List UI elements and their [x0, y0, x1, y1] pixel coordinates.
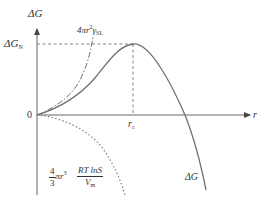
- surface-term-prefix: 4πr: [77, 25, 90, 35]
- surface-term-label: 4πr2γSL: [77, 24, 103, 36]
- diagram-canvas: [0, 0, 269, 205]
- volume-term-fraction: RT lnS Vm: [77, 166, 103, 188]
- x-axis-label-text: r: [253, 109, 257, 120]
- origin-label-text: 0: [27, 109, 32, 120]
- total-curve-label-text: ΔG: [185, 171, 198, 182]
- critical-energy-label: ΔGN: [4, 38, 23, 50]
- volume-term-pi-r: πr: [56, 171, 64, 181]
- nucleation-free-energy-diagram: ΔG ΔGN 4πr2γSL 0 rc r ΔG 4 3 πr3 RT lnS …: [0, 0, 269, 205]
- critical-energy-label-main: ΔG: [4, 37, 18, 49]
- fraction-numerator: RT lnS: [77, 166, 103, 177]
- y-axis-label: ΔG: [28, 8, 42, 19]
- x-axis-label: r: [253, 110, 257, 120]
- coefficient-denominator: 3: [50, 178, 55, 188]
- critical-radius-label: rc: [128, 119, 135, 130]
- volume-term-exponent: 3: [64, 170, 67, 176]
- critical-energy-label-sub: N: [18, 44, 22, 50]
- y-axis-label-text: ΔG: [28, 7, 42, 19]
- total-curve-label: ΔG: [185, 172, 198, 182]
- critical-radius-label-sub: c: [132, 124, 135, 130]
- fraction-denominator: Vm: [85, 177, 95, 188]
- fraction-denominator-sub: m: [90, 182, 95, 188]
- volume-term-label: 4 3 πr3 RT lnS Vm: [49, 166, 103, 188]
- surface-term-subscript: SL: [96, 30, 103, 36]
- origin-label: 0: [27, 110, 32, 120]
